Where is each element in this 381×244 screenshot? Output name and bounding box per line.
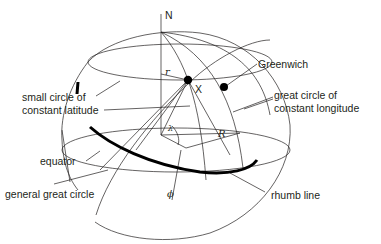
north-label: N [165,9,173,21]
general-great-circle-label: general great circle [5,188,94,200]
leader-rhumb [230,173,265,192]
small-circle-latitude [88,44,272,80]
radius-R-label: R [218,128,226,139]
general-great-circle [96,40,270,215]
leader-greenwich [226,64,257,86]
radius-r-label: r [165,66,170,77]
rhumb-line-label: rhumb line [271,189,320,201]
greenwich-label: Greenwich [258,58,308,70]
small-circle-label-1: small circle of [22,91,86,103]
rhumb-line [90,127,257,173]
point-x-label: X [195,83,202,95]
sphere-diagram: N Greenwich X r R λ ϕ small circle of co… [0,0,381,244]
leader-latitude [104,106,190,110]
greenwich-marker [220,83,228,91]
sphere-outline-left [62,62,88,190]
leader-equator [86,151,100,161]
point-x-marker [184,76,192,84]
great-circle-label-2: constant longitude [274,102,359,114]
great-circle-label-1: great circle of [274,89,337,101]
small-circle-label-2: constant latitude [22,104,98,116]
leader-great-circle-1 [233,97,273,112]
meridian-3 [161,32,270,115]
equator-label: equator [40,155,76,167]
lambda-label: λ [168,124,173,133]
phi-label: ϕ [167,188,174,199]
sphere-drawing [0,0,381,244]
leader-small-circle [96,81,120,96]
leader-general-1 [54,170,108,184]
